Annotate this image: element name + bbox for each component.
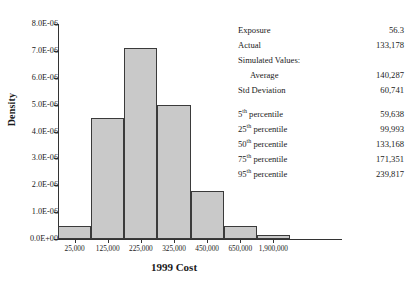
x-axis-tick-mark (207, 240, 208, 243)
x-axis-tick-mark (273, 240, 274, 243)
histogram-figure: Density 0.0E+001.0E-062.0E-063.0E-064.0E… (0, 0, 406, 284)
y-axis-tick-mark (54, 185, 58, 186)
stat-row: Actual133,178 (238, 41, 404, 56)
stat-label: Actual (238, 41, 261, 50)
stat-row: 95th percentile239,817 (238, 170, 404, 185)
y-axis-tick-mark (54, 158, 58, 159)
ordinal-suffix: th (247, 123, 252, 129)
y-axis-tick-label: 7.0E-06 (0, 47, 58, 55)
stat-value: 56.3 (389, 26, 404, 35)
stat-value: 133,178 (376, 41, 404, 50)
histogram-bar (224, 226, 257, 239)
x-axis-tick-mark (108, 240, 109, 243)
ordinal-suffix: th (247, 168, 252, 174)
x-axis-tick-label: 125,000 (96, 245, 120, 253)
stat-label: 75th percentile (238, 155, 287, 164)
x-axis-tick-mark (75, 240, 76, 243)
x-axis-tick-label: 650,000 (228, 245, 252, 253)
statistics-panel: Exposure56.3Actual133,178Simulated Value… (238, 26, 404, 185)
y-axis-tick-mark (54, 51, 58, 52)
x-axis-tick-mark (141, 240, 142, 243)
x-axis-title: 1999 Cost (38, 261, 310, 273)
stat-value: 133,168 (376, 140, 404, 149)
y-axis-tick-label: 2.0E-06 (0, 181, 58, 189)
y-axis-tick-label: 8.0E-06 (0, 20, 58, 28)
histogram-bar (58, 226, 91, 239)
x-axis-tick-label: 325,000 (162, 245, 186, 253)
histogram-bar (191, 191, 224, 239)
stat-label: Average (250, 71, 278, 80)
stat-value: 171,351 (376, 155, 404, 164)
stat-row: Average140,287 (238, 71, 404, 86)
stat-row: 5th percentile59,638 (238, 110, 404, 125)
stat-label: Exposure (238, 26, 270, 35)
stat-row: Simulated Values: (238, 56, 404, 71)
histogram-bar (157, 105, 190, 239)
stat-value: 239,817 (376, 170, 404, 179)
stat-value: 60,741 (380, 86, 404, 95)
stat-row: 50th percentile133,168 (238, 140, 404, 155)
stat-row: 75th percentile171,351 (238, 155, 404, 170)
y-axis-tick-labels: 0.0E+001.0E-062.0E-063.0E-064.0E-065.0E-… (0, 0, 58, 284)
y-axis-tick-label: 3.0E-06 (0, 154, 58, 162)
y-axis-tick-label: 5.0E-06 (0, 101, 58, 109)
y-axis-tick-mark (54, 132, 58, 133)
x-axis-tick-label: 1,900,000 (259, 245, 288, 253)
stat-label: 25th percentile (238, 125, 287, 134)
x-axis-line (58, 239, 342, 240)
y-axis-tick-label: 4.0E-06 (0, 128, 58, 136)
y-axis-tick-mark (54, 239, 58, 240)
histogram-bar (124, 48, 157, 239)
x-axis-tick-mark (174, 240, 175, 243)
y-axis-tick-label: 1.0E-06 (0, 208, 58, 216)
x-axis-tick-label: 450,000 (195, 245, 219, 253)
stat-label: 95th percentile (238, 170, 287, 179)
y-axis-tick-label: 6.0E-06 (0, 74, 58, 82)
stat-label: Simulated Values: (238, 56, 300, 65)
x-axis-tick-mark (240, 240, 241, 243)
stat-label: 50th percentile (238, 140, 287, 149)
ordinal-suffix: th (242, 108, 247, 114)
stat-label: Std Deviation (238, 86, 286, 95)
stat-value: 59,638 (380, 110, 404, 119)
histogram-bar (91, 118, 124, 239)
stat-row: Exposure56.3 (238, 26, 404, 41)
stat-row: 25th percentile99,993 (238, 125, 404, 140)
x-axis-tick-label: 25,000 (65, 245, 85, 253)
stat-value: 140,287 (376, 71, 404, 80)
stat-row: Std Deviation60,741 (238, 86, 404, 101)
ordinal-suffix: th (247, 138, 252, 144)
stat-value: 99,993 (380, 125, 404, 134)
x-axis-tick-label: 225,000 (129, 245, 153, 253)
y-axis-tick-label: 0.0E+00 (0, 235, 58, 243)
ordinal-suffix: th (247, 153, 252, 159)
y-axis-tick-mark (54, 105, 58, 106)
stat-label: 5th percentile (238, 110, 283, 119)
y-axis-tick-mark (54, 24, 58, 25)
y-axis-tick-mark (54, 212, 58, 213)
y-axis-tick-mark (54, 78, 58, 79)
